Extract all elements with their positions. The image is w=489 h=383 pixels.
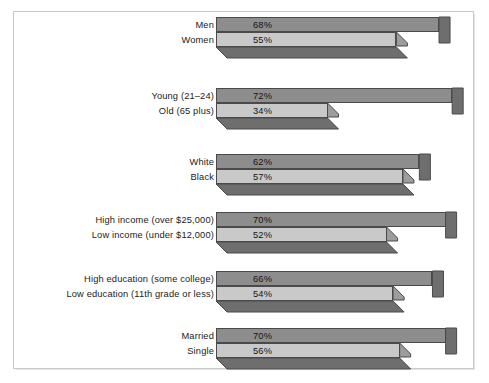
bar-value-age-primary: 72% [253,91,272,101]
bar-race-secondary: 57% [216,169,403,184]
bar-label-education-secondary: Low education (11th grade or less) [0,289,214,300]
bar-value-gender-secondary: 55% [253,35,272,45]
bar-label-gender-primary: Men [0,20,214,31]
bar-label-gender-secondary: Women [0,35,214,46]
bar-label-income-primary: High income (over $25,000) [0,215,214,226]
bar-marital-status-primary: 70% [216,328,446,343]
bar-label-income-secondary: Low income (under $12,000) [0,230,214,241]
bar-value-income-secondary: 52% [253,230,272,240]
bar-education-secondary: 54% [216,286,393,301]
bar-gender-primary: 68% [216,17,439,32]
bar-race-primary: 62% [216,154,419,169]
bar-value-age-secondary: 34% [253,106,272,116]
bar-label-education-primary: High education (some college) [0,274,214,285]
bar-value-marital-status-secondary: 56% [253,346,272,356]
bar-value-marital-status-primary: 70% [253,331,272,341]
bar-income-secondary: 52% [216,227,387,242]
bar-value-race-secondary: 57% [253,172,272,182]
bar-chart: MenWomen68%55%Young (21–24)Old (65 plus)… [0,0,489,383]
bar-label-race-secondary: Black [0,172,214,183]
bar-label-age-secondary: Old (65 plus) [0,106,214,117]
bar-value-education-secondary: 54% [253,289,272,299]
bar-value-education-primary: 66% [253,274,272,284]
bar-marital-status-secondary: 56% [216,343,400,358]
bar-age-primary: 72% [216,88,452,103]
bar-gender-secondary: 55% [216,32,396,47]
bar-income-primary: 70% [216,212,446,227]
bar-education-primary: 66% [216,271,432,286]
bar-value-race-primary: 62% [253,157,272,167]
bar-label-age-primary: Young (21–24) [0,91,214,102]
bar-value-income-primary: 70% [253,215,272,225]
bar-value-gender-primary: 68% [253,20,272,30]
bar-label-race-primary: White [0,157,214,168]
bar-age-secondary: 34% [216,103,328,118]
bar-label-marital-status-primary: Married [0,331,214,342]
bar-label-marital-status-secondary: Single [0,346,214,357]
